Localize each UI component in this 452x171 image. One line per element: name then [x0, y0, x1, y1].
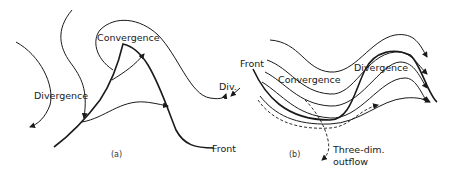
label-divergence-a: Divergence [34, 91, 88, 101]
divergence-streamline [16, 42, 51, 127]
inflow-streamline [61, 10, 85, 118]
panel-a [16, 10, 240, 148]
panel-b [253, 35, 437, 160]
label-convergence-a: Convergence [97, 33, 160, 43]
caption-b: (b) [289, 151, 300, 159]
label-divergence-b: Divergence [354, 63, 408, 73]
label-outflow-line2: outflow [333, 157, 368, 167]
label-front-a: Front [212, 144, 236, 154]
label-outflow-line1: Three-dim. [333, 145, 385, 155]
label-front-b: Front [240, 59, 264, 69]
front-line-b [253, 51, 437, 120]
lower-arrow [82, 102, 168, 122]
label-div-abbrev-a: Div. [219, 82, 237, 92]
label-convergence-b: Convergence [278, 75, 341, 85]
outflow-dashed [305, 100, 329, 160]
caption-a: (a) [111, 151, 122, 159]
